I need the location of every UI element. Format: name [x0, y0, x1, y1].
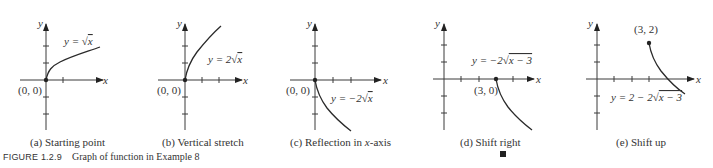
- y-axis-label: y: [37, 17, 43, 29]
- y-axis-label: y: [176, 17, 182, 29]
- caption-d: (d) Shift right: [460, 136, 521, 149]
- figure-number: FIGURE 1.2.9: [3, 152, 62, 162]
- point-label: (0, 0): [286, 84, 310, 97]
- panel-a: x y y = √x (0, 0) (a) Starting point: [18, 17, 108, 149]
- curve-neg-2-sqrt-x-minus-3: [496, 79, 532, 130]
- y-axis-label: y: [434, 17, 440, 29]
- curve-neg-2-sqrt-x: [315, 80, 351, 131]
- curve-2-minus-2-sqrt-x-minus-3: [649, 43, 685, 94]
- equation-label: y = 2√x: [207, 53, 242, 65]
- curve-sqrt-x: [46, 47, 100, 80]
- caption-b: (b) Vertical stretch: [162, 136, 244, 149]
- equation-label: y = √x: [63, 35, 93, 47]
- y-axis-label: y: [306, 17, 312, 29]
- point-origin: [313, 78, 317, 82]
- point-origin: [183, 78, 187, 82]
- figure-caption: FIGURE 1.2.9Graph of function in Example…: [3, 151, 199, 162]
- caption-e: (e) Shift up: [616, 136, 667, 149]
- equation-label: y = −2√x: [330, 92, 373, 104]
- equation-label: y = 2 − 2√x − 3: [610, 91, 683, 103]
- caption-c: (c) Reflection in x-axis: [290, 136, 391, 149]
- end-of-example-square-icon: [500, 151, 506, 157]
- point-label: (3, 2): [634, 23, 658, 36]
- point-label: (0, 0): [18, 84, 42, 97]
- figure-caption-text: Graph of function in Example 8: [72, 151, 199, 162]
- equation-label: y = −2√x − 3: [471, 54, 533, 66]
- figure-graphs: x y y = √x (0, 0) (a) Starting point x y…: [0, 0, 713, 168]
- point-label: (3, 0): [474, 84, 498, 97]
- point-origin: [44, 78, 48, 82]
- point-label: (0, 0): [157, 84, 181, 97]
- caption-a: (a) Starting point: [30, 136, 105, 149]
- panel-b: x y y = 2√x (0, 0) (b) Vertical stretch: [157, 17, 248, 149]
- panel-e: x y (3, 2) y = 2 − 2√x − 3 (e) Shift up: [586, 17, 701, 149]
- point-3-0: [494, 77, 498, 81]
- panel-d: x y y = −2√x − 3 (3, 0) (d) Shift right: [433, 17, 541, 149]
- x-axis-label: x: [695, 73, 701, 85]
- x-axis-label: x: [535, 73, 541, 85]
- point-3-2: [647, 41, 651, 45]
- x-axis-label: x: [102, 74, 108, 86]
- panel-c: x y y = −2√x (0, 0) (c) Reflection in x-…: [286, 17, 391, 149]
- y-axis-label: y: [587, 17, 593, 29]
- x-axis-label: x: [382, 74, 388, 86]
- x-axis-label: x: [242, 74, 248, 86]
